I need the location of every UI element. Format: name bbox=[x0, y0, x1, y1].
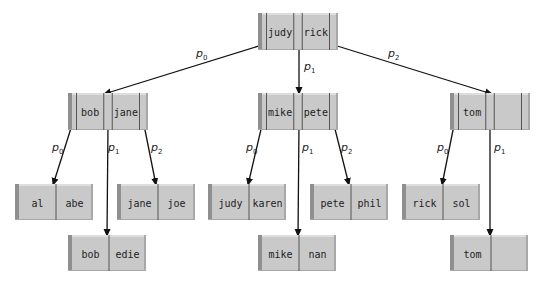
leaf-node-leaf-jane-joe: janejoe bbox=[117, 184, 195, 220]
pointer-label: p0 bbox=[51, 141, 63, 156]
node-key: rick bbox=[412, 198, 436, 209]
node-key: judy bbox=[218, 198, 242, 209]
arrow-icon bbox=[334, 45, 492, 94]
pointer-edge: p1 bbox=[299, 45, 315, 94]
pointer-edge: p0 bbox=[104, 45, 262, 94]
arrow-icon bbox=[298, 125, 299, 236]
pointer-edge: p2 bbox=[334, 45, 492, 94]
arrow-icon bbox=[144, 125, 156, 185]
arrow-icon bbox=[334, 125, 349, 185]
internal-node-n-bob-jane: bobjane bbox=[68, 93, 148, 130]
node-key: judy bbox=[268, 27, 292, 38]
pointer-edge: p2 bbox=[334, 125, 352, 185]
pointer-label: p0 bbox=[436, 141, 448, 156]
pointer-edge: p0 bbox=[51, 125, 72, 185]
pointer-label: p1 bbox=[301, 141, 313, 156]
node-key: jane bbox=[127, 198, 151, 209]
node-key: tom bbox=[463, 107, 481, 118]
arrow-icon bbox=[104, 45, 262, 94]
internal-node-n-mike-pete: mikepete bbox=[258, 93, 338, 130]
node-key: jane bbox=[114, 107, 138, 118]
node-key: tom bbox=[463, 249, 481, 260]
pointer-edge: p1 bbox=[490, 125, 505, 236]
internal-node-root: judyrick bbox=[258, 13, 338, 50]
pointer-label: p2 bbox=[150, 141, 162, 156]
node-key: joe bbox=[167, 198, 185, 209]
leaf-node-leaf-al-abe: alabe bbox=[15, 184, 93, 220]
pointer-edge: p2 bbox=[144, 125, 162, 185]
node-key: sol bbox=[452, 198, 470, 209]
node-key: rick bbox=[304, 27, 328, 38]
node-key: pete bbox=[320, 198, 344, 209]
node-key: phil bbox=[357, 198, 381, 209]
node-key: edie bbox=[115, 249, 139, 260]
node-key: mike bbox=[268, 107, 292, 118]
node-key: mike bbox=[268, 249, 292, 260]
leaf-node-leaf-bob-edie: bobedie bbox=[68, 235, 146, 271]
node-key: pete bbox=[304, 107, 328, 118]
leaf-node-leaf-judy-karen: judykaren bbox=[208, 184, 286, 220]
pointer-label: p1 bbox=[107, 141, 119, 156]
pointer-label: p1 bbox=[493, 141, 505, 156]
internal-node-n-tom: tom bbox=[450, 93, 530, 130]
node-key: abe bbox=[65, 198, 83, 209]
pointer-label: p0 bbox=[245, 141, 257, 156]
leaf-node-leaf-tom: tom bbox=[450, 235, 528, 271]
node-key: karen bbox=[252, 198, 282, 209]
pointer-label: p1 bbox=[303, 60, 315, 75]
node-key: nan bbox=[308, 249, 326, 260]
node-key: al bbox=[31, 198, 43, 209]
node-key: bob bbox=[81, 107, 99, 118]
leaf-node-leaf-mike-nan: mikenan bbox=[258, 235, 336, 271]
pointer-label: p0 bbox=[195, 47, 207, 62]
node-key: bob bbox=[81, 249, 99, 260]
pointer-edge: p0 bbox=[245, 125, 262, 185]
b-tree-diagram: p0p1p2p0p1p2p0p1p2p0p1 judyrickbobjanemi… bbox=[0, 0, 539, 282]
pointer-label: p2 bbox=[340, 141, 352, 156]
leaf-node-leaf-rick-sol: ricksol bbox=[402, 184, 480, 220]
pointer-label: p2 bbox=[387, 47, 399, 62]
leaf-node-leaf-pete-phil: petephil bbox=[310, 184, 388, 220]
nodes-layer: judyrickbobjanemikepetetomalabebobedieja… bbox=[15, 13, 530, 271]
pointer-edge: p0 bbox=[436, 125, 454, 185]
